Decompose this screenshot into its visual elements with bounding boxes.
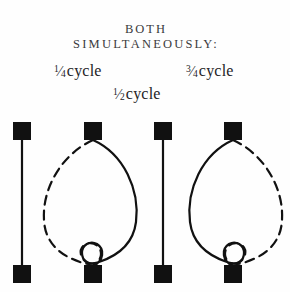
label-quarter-cycle: 1⁄4cycle xyxy=(54,62,102,80)
straight-line-figure-right xyxy=(154,122,172,283)
node-square-bottom xyxy=(84,265,102,283)
fraction-denominator: 4 xyxy=(193,69,198,79)
fraction-one-quarter: 1⁄4 xyxy=(54,63,66,79)
strand-dashed-right xyxy=(225,140,282,266)
title-line-2: SIMULTANEOUSLY: xyxy=(0,37,290,52)
fraction-three-quarters: 3⁄4 xyxy=(186,63,198,79)
crossed-lens-figure-dashed-right xyxy=(189,122,282,283)
cycle-diagram xyxy=(0,110,290,292)
node-square-top xyxy=(154,122,172,140)
node-square-bottom xyxy=(13,265,31,283)
label-quarter-word: cycle xyxy=(67,62,102,79)
node-square-top xyxy=(13,122,31,140)
diagram-page: BOTH SIMULTANEOUSLY: 1⁄4cycle 1⁄2cycle 3… xyxy=(0,0,290,292)
node-square-top xyxy=(224,122,242,140)
node-square-bottom xyxy=(154,265,172,283)
diagram-canvas xyxy=(0,110,290,292)
label-three-quarter-word: cycle xyxy=(199,62,234,79)
strand-dashed-left xyxy=(44,140,101,266)
node-square-bottom xyxy=(224,265,242,283)
label-half-word: cycle xyxy=(126,85,161,102)
strand-solid-right xyxy=(82,140,137,266)
straight-line-figure-left xyxy=(13,122,31,283)
label-three-quarter-cycle: 3⁄4cycle xyxy=(186,62,234,80)
strand-solid-left xyxy=(189,140,244,266)
fraction-denominator: 2 xyxy=(120,92,125,102)
page-title: BOTH SIMULTANEOUSLY: xyxy=(0,22,290,53)
fraction-denominator: 4 xyxy=(61,69,66,79)
node-square-top xyxy=(84,122,102,140)
fraction-one-half: 1⁄2 xyxy=(113,86,125,102)
title-line-1: BOTH xyxy=(0,22,290,37)
label-half-cycle: 1⁄2cycle xyxy=(113,85,161,103)
crossed-lens-figure-dashed-left xyxy=(44,122,137,283)
